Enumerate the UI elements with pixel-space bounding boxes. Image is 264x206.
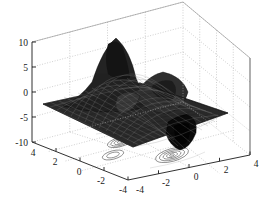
x-tick-2: 2 <box>224 165 229 175</box>
z-tick-neg5: -5 <box>20 113 28 123</box>
x-tick-0: 0 <box>194 172 199 182</box>
z-tick-10: 10 <box>19 38 29 48</box>
y-tick-neg2: -2 <box>97 176 105 186</box>
y-tick-neg4: -4 <box>119 185 127 195</box>
x-tick-neg2: -2 <box>162 178 170 188</box>
z-tick-neg10: -10 <box>15 138 28 148</box>
z-tick-5: 5 <box>23 63 28 73</box>
y-tick-4: 4 <box>31 148 36 158</box>
z-tick-0: 0 <box>23 88 28 98</box>
figure-canvas: 10 5 0 -5 -10 4 2 0 -2 -4 -4 -2 0 2 4 <box>0 0 264 206</box>
x-tick-4: 4 <box>254 159 259 169</box>
y-tick-0: 0 <box>77 167 82 177</box>
peaks-surface-plot: 10 5 0 -5 -10 4 2 0 -2 -4 -4 -2 0 2 4 <box>0 0 264 206</box>
x-tick-neg4: -4 <box>136 185 144 195</box>
y-tick-2: 2 <box>53 157 58 167</box>
